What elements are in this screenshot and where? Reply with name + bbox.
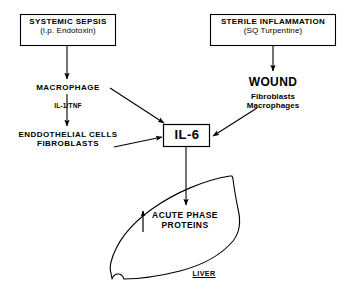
sterile-inflammation-label: STERILE INFLAMMATION (SQ Turpentine) [210,18,336,36]
endothelial-fibroblast-label: ENDDOTHELIAL CELLS FIBROBLASTS [8,131,128,149]
macrophage-label: MACROPHAGE [20,84,116,93]
wound-cells-line2: Macrophages [230,102,316,111]
wound-cells-label: Fibroblasts Macrophages [230,93,316,111]
liver-organ-label: LIVER [184,270,224,278]
acute-phase-proteins-label: ACUTE PHASE PROTEINS [141,211,229,230]
wound-heading: WOUND [232,76,314,89]
systemic-sepsis-label: SYSTEMIC SEPSIS (i.p. Endotoxin) [20,18,116,36]
arrow-wound-to-il6 [213,108,257,136]
il6-label: IL-6 [163,128,211,143]
systemic-sepsis-line2: (i.p. Endotoxin) [20,27,116,36]
il6-pathway-diagram: SYSTEMIC SEPSIS (i.p. Endotoxin) STERILE… [0,0,353,296]
arrow-macrophage-to-il6 [110,88,164,123]
sterile-inflammation-line2: (SQ Turpentine) [210,27,336,36]
endothelial-line2: FIBROBLASTS [8,140,128,149]
acute-phase-line2: PROTEINS [141,221,229,231]
il1-tnf-label: IL-1/TNF [41,102,95,109]
